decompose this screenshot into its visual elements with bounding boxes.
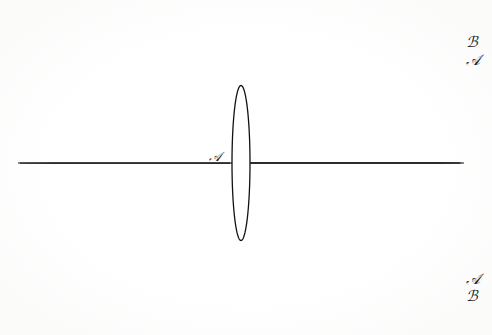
label-stream-b-top-right: ℬ bbox=[466, 35, 478, 50]
flow-figure: ℬ 𝒜 𝒜 ℬ 𝒜 bbox=[0, 0, 492, 335]
label-stream-a-top-right: 𝒜 bbox=[466, 53, 480, 68]
flow-grid-canvas bbox=[0, 0, 492, 335]
airfoil-group bbox=[232, 86, 250, 241]
label-stream-a-bottom-right: 𝒜 bbox=[466, 272, 480, 287]
label-stream-b-bottom-right: ℬ bbox=[466, 289, 478, 304]
label-stagnation-point: 𝒜 bbox=[209, 150, 221, 163]
airfoil-outline bbox=[232, 86, 250, 241]
